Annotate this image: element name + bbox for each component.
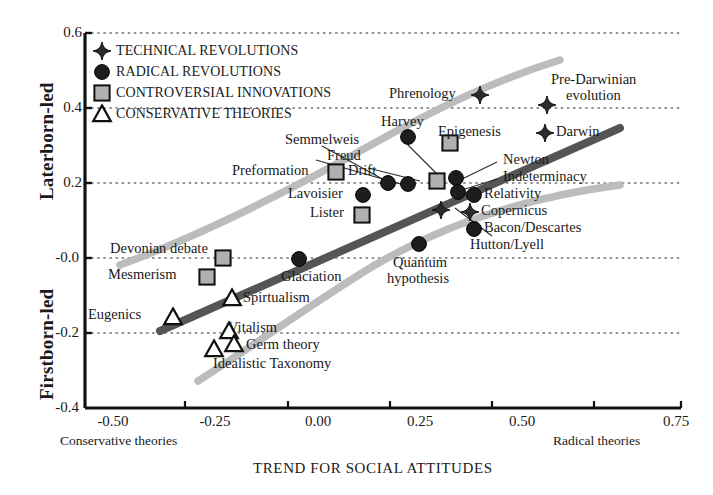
point-label-epigenesis: Epigenesis (438, 124, 501, 139)
point-label-glaciation: Glaciation (281, 269, 341, 284)
point-label-quantum-line1: Quantum (393, 255, 447, 270)
x-tick-4: 0.50 (487, 413, 557, 430)
chart-figure: Laterborn-led Firstborn-led 0.6 0.4 0.2 … (0, 0, 713, 495)
point-label-freud: Freud (327, 148, 361, 163)
x-tick-0: -0.50 (78, 413, 148, 430)
point-label-hutton-lyell: Hutton/Lyell (470, 237, 544, 252)
point-label-indeterminacy: Indeterminacy (503, 169, 587, 184)
point-label-drift: Drift (348, 163, 376, 178)
point-label-idealistic-taxonomy: Idealistic Taxonomy (213, 356, 331, 371)
marker-newton (449, 171, 464, 186)
legend-item-technical-revolutions: TECHNICAL REVOLUTIONS (116, 43, 298, 59)
y-tick-5: -0.4 (37, 399, 79, 416)
x-tick-5: 0.75 (641, 413, 711, 430)
marker-freud (401, 177, 416, 192)
point-label-newton: Newton (503, 152, 549, 167)
point-label-relativity: Relativity (484, 186, 541, 201)
marker-pre-darwinian-evolution (538, 96, 556, 114)
legend-item-controversial-innovations: CONTROVERSIAL INNOVATIONS (116, 85, 331, 101)
point-label-devonian-debate: Devonian debate (110, 241, 208, 256)
legend-item-conservative-theories: CONSERVATIVE THEORIES (116, 106, 292, 122)
marker-semmelweis (381, 176, 396, 191)
marker-glaciation (292, 252, 307, 267)
point-label-lister: Lister (310, 205, 344, 220)
marker-lavoisier (356, 188, 371, 203)
y-tick-1: 0.4 (40, 99, 82, 116)
y-axis-label-firstborn: Firstborn-led (36, 289, 58, 400)
y-tick-0: 0.6 (40, 24, 82, 41)
point-label-darwin: Darwin (556, 124, 600, 139)
x-axis-left-note: Conservative theories (60, 433, 177, 449)
point-label-eugenics: Eugenics (88, 307, 141, 322)
point-label-preformation: Preformation (232, 163, 309, 178)
point-label-spirtualism: Spirtualism (243, 290, 310, 305)
marker-darwin (536, 124, 554, 142)
point-label-copernicus: Copernicus (481, 203, 547, 218)
marker-indeterminacy (451, 185, 466, 200)
marker-preformation (328, 164, 343, 179)
marker-mesmerism (199, 269, 214, 284)
point-label-vitalism: Vitalism (228, 320, 277, 335)
y-tick-4: -0.2 (37, 324, 79, 341)
marker-relativity (467, 188, 482, 203)
x-tick-3: 0.25 (385, 413, 455, 430)
marker-bacon-descartes (467, 222, 482, 237)
point-label-quantum-line2: hypothesis (387, 271, 449, 286)
marker-devonian-debate (215, 250, 230, 265)
legend-markers (93, 42, 111, 121)
point-label-semmelweis: Semmelweis (285, 132, 359, 147)
marker-idealistic-taxonomy (205, 340, 223, 356)
point-label-phrenology: Phrenology (389, 86, 456, 101)
point-label-pre-darwinian-line2: evolution (566, 88, 621, 103)
y-tick-3: -0.0 (37, 249, 79, 266)
point-label-lavoisier: Lavoisier (288, 186, 343, 201)
point-label-pre-darwinian-line1: Pre-Darwinian (551, 72, 636, 87)
point-label-bacon-descartes: Bacon/Descartes (484, 220, 581, 235)
point-label-germ-theory: Germ theory (246, 337, 320, 352)
x-tick-1: -0.25 (180, 413, 250, 430)
marker-eugenics (164, 308, 182, 324)
legend-item-radical-revolutions: RADICAL REVOLUTIONS (116, 64, 281, 80)
x-axis-right-note: Radical theories (553, 433, 640, 449)
marker-drift (429, 173, 444, 188)
y-tick-2: 0.2 (40, 174, 82, 191)
x-tick-2: 0.00 (283, 413, 353, 430)
marker-lister (354, 207, 369, 222)
marker-harvey (401, 130, 416, 145)
point-label-mesmerism: Mesmerism (108, 267, 176, 282)
point-label-harvey: Harvey (381, 114, 424, 129)
x-axis-title: TREND FOR SOCIAL ATTITUDES (253, 460, 493, 477)
marker-quantum-hypothesis (412, 237, 427, 252)
